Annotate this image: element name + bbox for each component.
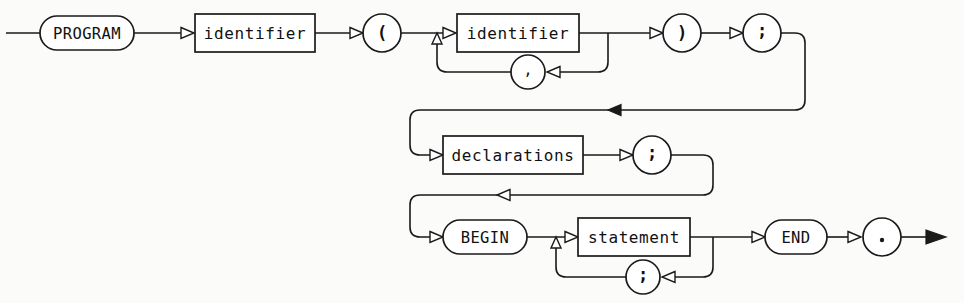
arrow-to-lparen-icon <box>350 28 363 39</box>
node-declarations-label: declarations <box>452 146 575 165</box>
node-statement-label: statement <box>588 228 680 247</box>
syntax-diagram-canvas: PROGRAM identifier ( identifier , ) <box>0 0 964 303</box>
arrow-comma-loop-icon <box>547 67 560 78</box>
arrow-to-param-identifier-icon <box>443 28 456 39</box>
node-semicolon-statement-label: ; <box>638 265 648 285</box>
node-lparen-label: ( <box>377 23 387 43</box>
arrow-to-begin-icon <box>430 232 443 243</box>
node-semicolon-header-label: ; <box>757 21 767 41</box>
railroad-diagram: PROGRAM identifier ( identifier , ) <box>0 0 964 303</box>
arrow-to-identifier-icon <box>181 28 194 39</box>
node-comma-label: , <box>523 61 532 79</box>
arrow-to-declarations-icon <box>430 150 443 161</box>
node-semicolon-declarations-label: ; <box>647 143 657 163</box>
arrow-to-period-icon <box>848 232 861 243</box>
loop-entry-marker-statement-semicolon-icon <box>551 237 561 248</box>
connector-arrow-begin-icon <box>497 190 510 201</box>
node-rparen-label: ) <box>677 23 687 43</box>
node-period-label <box>880 238 884 242</box>
node-program-keyword-label: PROGRAM <box>53 25 121 43</box>
arrow-to-statement-icon <box>565 232 578 243</box>
arrow-statement-loop-icon <box>662 272 675 283</box>
node-identifier-param-label: identifier <box>467 24 569 43</box>
node-period[interactable] <box>863 218 901 256</box>
loop-entry-marker-comma-icon <box>432 33 442 44</box>
arrow-to-rparen-icon <box>650 28 663 39</box>
node-end-keyword-label: END <box>781 229 810 247</box>
node-begin-keyword-label: BEGIN <box>461 229 510 247</box>
arrow-to-header-semicolon-icon <box>730 28 743 39</box>
node-identifier-name-label: identifier <box>204 24 306 43</box>
exit-arrow-icon <box>926 230 946 244</box>
arrow-to-declarations-semicolon-icon <box>620 150 633 161</box>
connector-arrow-declarations-icon <box>608 105 621 116</box>
arrow-to-end-icon <box>752 232 765 243</box>
